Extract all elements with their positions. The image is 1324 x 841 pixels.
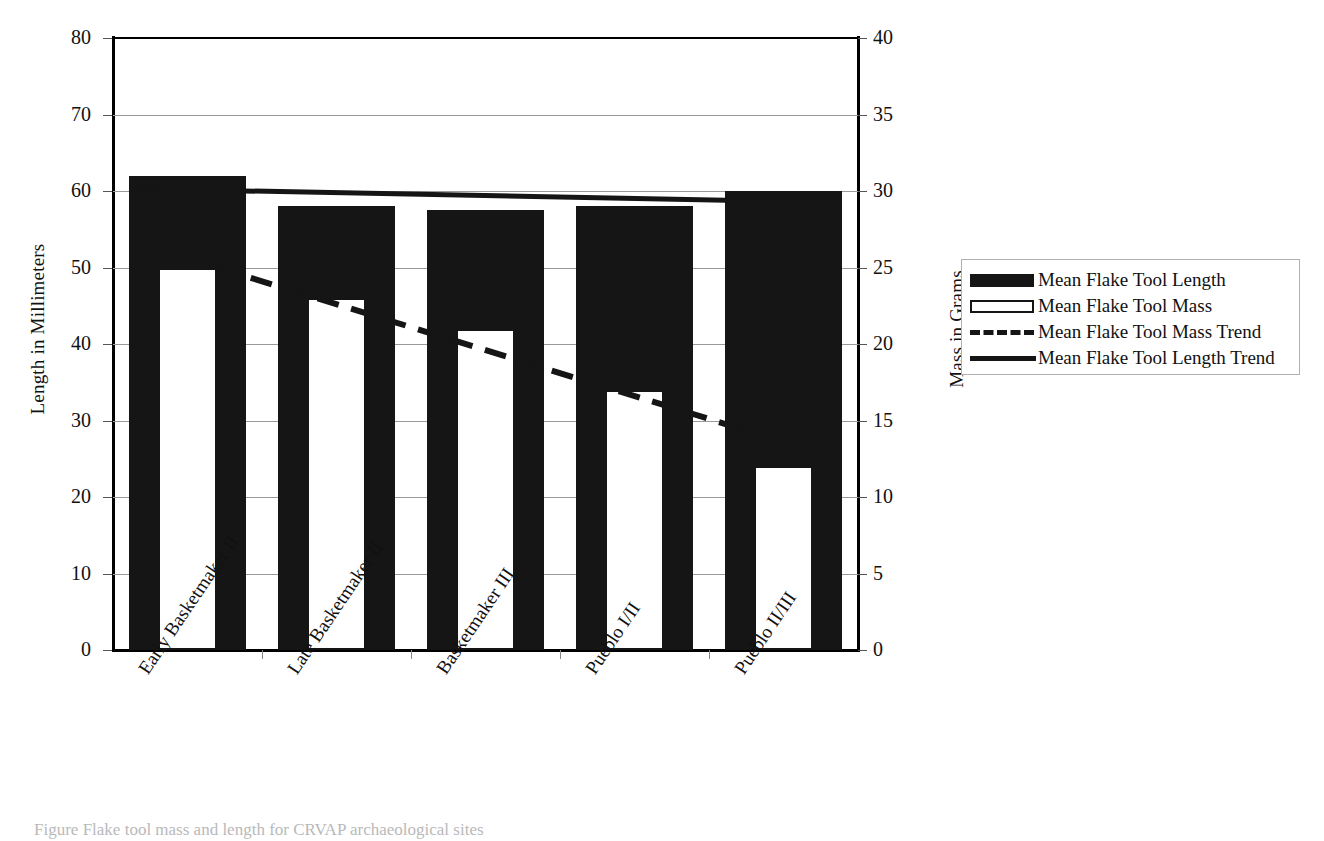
y-tick-label-left: 70 (31, 104, 91, 124)
y-tick-label-left: 50 (31, 257, 91, 277)
gridline (113, 115, 858, 116)
y-axis-left-title: Length in Millimeters (27, 179, 49, 479)
y-tick-label-left: 20 (31, 486, 91, 506)
y-tick-label-left: 10 (31, 563, 91, 583)
legend-label: Mean Flake Tool Length (1038, 269, 1226, 291)
plot-border-top (112, 37, 859, 39)
y-tick-mark-left (103, 497, 112, 498)
legend-item: Mean Flake Tool Length Trend (962, 345, 1299, 371)
legend-swatch-filled-bar-icon (970, 274, 1034, 287)
y-tick-mark-left (103, 650, 112, 651)
y-tick-mark-left (103, 191, 112, 192)
y-tick-label-left: 40 (31, 333, 91, 353)
y-tick-mark-left (103, 268, 112, 269)
y-tick-mark-right (858, 115, 867, 116)
legend-label: Mean Flake Tool Mass Trend (1038, 321, 1261, 343)
y-tick-label-right: 40 (873, 27, 933, 47)
legend-swatch-dashed-line-icon (970, 330, 1034, 335)
y-tick-mark-right (858, 650, 867, 651)
y-tick-mark-right (858, 191, 867, 192)
y-tick-mark-left (103, 574, 112, 575)
chart-figure: Length in Millimeters Mass in Grams 0102… (0, 0, 1324, 841)
legend-swatch-solid-line-icon (970, 356, 1036, 361)
legend-key (970, 272, 1034, 288)
legend-item: Mean Flake Tool Length (962, 267, 1299, 293)
y-tick-label-right: 35 (873, 104, 933, 124)
y-tick-label-right: 30 (873, 180, 933, 200)
y-tick-label-left: 80 (31, 27, 91, 47)
x-tick-mark (262, 650, 263, 659)
y-tick-mark-left (103, 38, 112, 39)
legend-key (970, 298, 1034, 314)
legend-label: Mean Flake Tool Length Trend (1038, 347, 1275, 369)
legend-key (970, 324, 1034, 340)
y-tick-label-left: 60 (31, 180, 91, 200)
y-tick-mark-right (858, 574, 867, 575)
legend-label: Mean Flake Tool Mass (1038, 295, 1212, 317)
legend-item: Mean Flake Tool Mass (962, 293, 1299, 319)
y-tick-mark-right (858, 344, 867, 345)
y-tick-mark-right (858, 38, 867, 39)
chart-legend: Mean Flake Tool LengthMean Flake Tool Ma… (961, 259, 1300, 375)
y-tick-label-right: 15 (873, 410, 933, 430)
y-tick-label-right: 5 (873, 563, 933, 583)
figure-caption: Figure Flake tool mass and length for CR… (34, 820, 1034, 840)
legend-item: Mean Flake Tool Mass Trend (962, 319, 1299, 345)
y-tick-mark-left (103, 115, 112, 116)
y-tick-mark-right (858, 497, 867, 498)
y-tick-label-left: 30 (31, 410, 91, 430)
x-tick-mark (560, 650, 561, 659)
y-tick-label-right: 0 (873, 639, 933, 659)
legend-key (970, 350, 1034, 366)
y-tick-label-right: 20 (873, 333, 933, 353)
y-tick-mark-left (103, 421, 112, 422)
y-tick-label-left: 0 (31, 639, 91, 659)
x-tick-mark (411, 650, 412, 659)
y-tick-mark-right (858, 421, 867, 422)
legend-swatch-open-bar-icon (970, 300, 1034, 313)
y-tick-mark-left (103, 344, 112, 345)
y-tick-label-right: 25 (873, 257, 933, 277)
y-tick-label-right: 10 (873, 486, 933, 506)
y-tick-mark-right (858, 268, 867, 269)
x-tick-mark (709, 650, 710, 659)
